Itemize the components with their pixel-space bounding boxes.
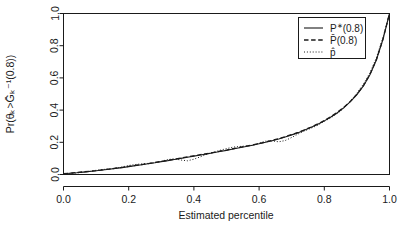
y-tick-label: 0.6 [49,70,61,85]
legend-label-3: p̂ [330,47,336,58]
y-tick-label: 0.4 [49,103,61,118]
legend-label-2: P̄(0.8) [330,34,357,46]
legend-label-1: P∗(0.8) [330,22,363,34]
x-tick-label: 0.8 [317,193,332,205]
y-tick-label: 1.0 [49,6,61,21]
y-tick-label: 0.8 [49,38,61,53]
x-tick-label: 1.0 [382,193,397,205]
y-axis-ticks: 0.00.20.40.60.81.0 [49,6,64,182]
x-tick-label: 0.2 [121,193,136,205]
chart-canvas: 0.00.20.40.60.81.0 0.00.20.40.60.81.0 Es… [0,0,420,236]
x-axis-ticks: 0.00.20.40.60.81.0 [56,187,397,205]
chart-legend: P∗(0.8)P̄(0.8)p̂ [299,18,366,59]
x-tick-label: 0.4 [187,193,202,205]
y-tick-label: 0.0 [49,167,61,182]
y-tick-label: 0.2 [49,135,61,150]
x-axis-title: Estimated percentile [178,209,273,221]
figure-panel: 0.00.20.40.60.81.0 0.00.20.40.60.81.0 Es… [0,0,420,236]
y-axis-title: Pr(θₖ>Ḡₖ⁻¹(0.8)) [4,55,16,134]
x-tick-label: 0.6 [252,193,267,205]
x-tick-label: 0.0 [56,193,71,205]
